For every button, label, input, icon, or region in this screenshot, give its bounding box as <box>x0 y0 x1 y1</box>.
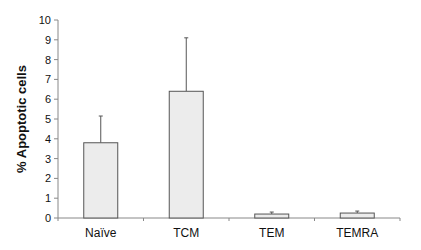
bar-naïve <box>84 143 118 218</box>
y-tick-label: 8 <box>45 54 51 66</box>
y-tick-label: 2 <box>45 172 51 184</box>
x-tick-label: TEMRA <box>336 226 378 240</box>
y-tick-label: 7 <box>45 73 51 85</box>
x-tick-label: TEM <box>259 226 284 240</box>
y-tick-label: 10 <box>39 14 51 26</box>
y-axis-label: % Apoptotic cells <box>14 65 29 173</box>
bar-tem <box>255 214 289 218</box>
x-tick-label: Naïve <box>85 226 117 240</box>
bar-temra <box>340 213 374 218</box>
bar-tcm <box>169 91 203 218</box>
y-tick-label: 3 <box>45 153 51 165</box>
y-tick-label: 4 <box>45 133 51 145</box>
y-tick-label: 6 <box>45 93 51 105</box>
y-tick-label: 9 <box>45 34 51 46</box>
bar-chart: 012345678910NaïveTCMTEMTEMRA% Apoptotic … <box>0 0 421 250</box>
x-tick-label: TCM <box>173 226 199 240</box>
y-tick-label: 1 <box>45 192 51 204</box>
y-tick-label: 0 <box>45 212 51 224</box>
y-tick-label: 5 <box>45 113 51 125</box>
chart-canvas: 012345678910NaïveTCMTEMTEMRA% Apoptotic … <box>0 0 421 250</box>
